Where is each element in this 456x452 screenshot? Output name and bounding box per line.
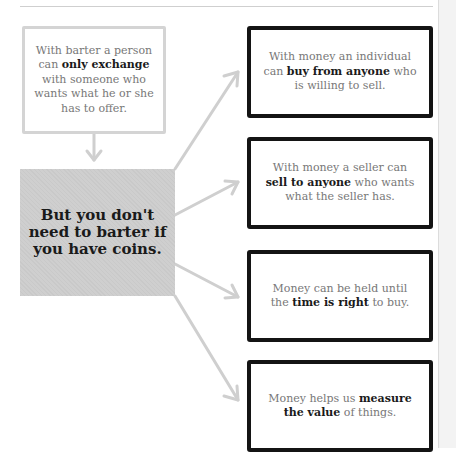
arrow-right-down-icon [175,264,238,298]
barter-text-bold: only exchange [62,58,150,71]
barter-limitation-box: With barter a person can only exchange w… [22,26,166,134]
arrow-down-right-icon [175,296,238,400]
money-text-post: of things. [340,406,396,419]
money-text-bold: time is right [292,296,369,309]
money-text-post: to buy. [369,296,409,309]
money-box-buy: With money an individual can buy from an… [247,26,433,118]
coins-highlight-box: But you don't need to barter if you have… [20,169,175,296]
arrow-up-right-icon [175,72,238,169]
money-box-measure: Money helps us measure the value of thin… [247,360,433,452]
coins-text: But you don't need to barter if you have… [26,207,169,258]
money-text-pre: With money a seller can [273,161,407,174]
money-box-sell: With money a seller can sell to anyone w… [247,137,433,229]
money-text-bold: sell to anyone [266,176,351,189]
barter-text-post: with someone who wants what he or she ha… [34,73,153,115]
arrow-right-up-icon [175,181,238,215]
arrow-down-icon [87,134,101,160]
money-text-bold: buy from anyone [287,65,390,78]
money-box-hold: Money can be held until the time is righ… [247,250,433,342]
money-text-pre: Money helps us [268,392,359,405]
